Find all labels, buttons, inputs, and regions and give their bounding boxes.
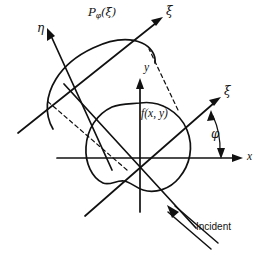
xi-axis-upper-label: ξ: [166, 5, 173, 17]
projection-profile-symbol: P: [88, 5, 96, 19]
xi-axis-lower-label: ξ: [224, 85, 231, 97]
xi-axis-lower-arrowhead-icon: [209, 97, 221, 106]
eta-axis-upper-line: [52, 38, 112, 170]
radon-projection-figure: Pφ(ξ) ξ η y x ξ f(x, y) φ Incident: [0, 0, 271, 254]
eta-axis-label: η: [37, 22, 44, 34]
x-axis-label: x: [247, 151, 252, 163]
y-axis-label: y: [144, 62, 149, 74]
y-axis-group: [136, 78, 144, 212]
eta-axis-upper-arrowhead-icon: [47, 28, 55, 41]
xi-axis-lower-line: [85, 103, 214, 216]
dashed-projection-ray-right: [149, 49, 178, 110]
figure-canvas: [0, 0, 271, 254]
projection-profile-label: Pφ(ξ): [88, 7, 116, 19]
phi-arc-arrowhead-top-icon: [207, 110, 215, 121]
phi-angle-label: φ: [211, 128, 219, 140]
projection-profile-argument: (ξ): [101, 5, 116, 19]
x-axis-arrowhead-icon: [232, 154, 243, 162]
y-axis-arrowhead-icon: [136, 78, 144, 89]
object-function-label: f(x, y): [141, 108, 168, 120]
incident-label: Incident: [196, 222, 231, 232]
